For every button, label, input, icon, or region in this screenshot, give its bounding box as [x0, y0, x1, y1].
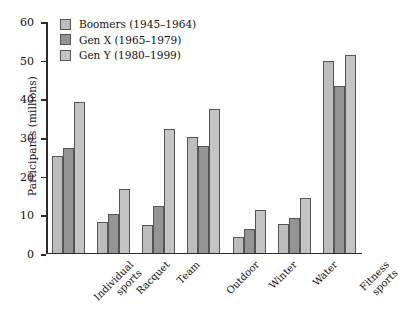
y-tick-label: 0	[27, 248, 34, 261]
x-axis-label: Water	[311, 259, 340, 288]
bar	[198, 146, 209, 252]
bar-group	[227, 22, 272, 253]
bar	[142, 225, 153, 252]
bar	[164, 129, 175, 253]
bar	[209, 109, 220, 252]
y-tick-label: 30	[20, 132, 34, 145]
y-tick-label: 60	[20, 16, 34, 29]
bar-group	[272, 22, 317, 253]
x-axis-label-line: Team	[175, 259, 202, 286]
bar-group	[317, 22, 362, 253]
x-axis-label: Fitnesssports	[358, 259, 400, 301]
legend-swatch	[60, 34, 71, 45]
bar	[233, 237, 244, 252]
bar	[323, 61, 334, 252]
x-axis-labels: IndividualsportsRacquetTeamOutdoorWinter…	[46, 256, 362, 315]
x-axis-label-line: Winter	[267, 259, 300, 292]
bar	[244, 229, 255, 252]
bar	[289, 218, 300, 253]
x-axis-label-line: Water	[311, 259, 340, 288]
x-axis-label: Team	[175, 259, 202, 286]
bar	[108, 214, 119, 253]
bar	[153, 206, 164, 252]
bar	[255, 210, 266, 253]
bar	[278, 224, 289, 253]
y-tick-label: 40	[20, 93, 34, 106]
bar	[300, 198, 311, 252]
x-axis-line	[46, 253, 362, 255]
y-tick-label: 50	[20, 54, 34, 67]
legend-item: Gen Y (1980–1999)	[60, 49, 196, 61]
x-axis-label: Winter	[267, 259, 300, 292]
legend-label: Gen Y (1980–1999)	[79, 49, 181, 61]
x-axis-label: Outdoor	[224, 259, 262, 297]
bar	[345, 55, 356, 252]
x-axis-label: Individualsports	[91, 259, 143, 311]
legend-label: Boomers (1945–1964)	[79, 18, 196, 30]
x-axis-label-line: Outdoor	[224, 259, 262, 297]
bar	[63, 148, 74, 252]
legend-label: Gen X (1965–1979)	[79, 34, 181, 46]
bar	[334, 86, 345, 252]
bar	[97, 222, 108, 253]
legend-item: Gen X (1965–1979)	[60, 34, 196, 46]
y-tick-label: 20	[20, 170, 34, 183]
legend-swatch	[60, 50, 71, 61]
legend-item: Boomers (1945–1964)	[60, 18, 196, 30]
bar	[119, 189, 130, 253]
chart-legend: Boomers (1945–1964)Gen X (1965–1979)Gen …	[60, 18, 196, 61]
legend-swatch	[60, 19, 71, 30]
bar	[52, 156, 63, 253]
y-tick-label: 10	[20, 209, 34, 222]
bar	[74, 102, 85, 253]
bar	[187, 137, 198, 253]
